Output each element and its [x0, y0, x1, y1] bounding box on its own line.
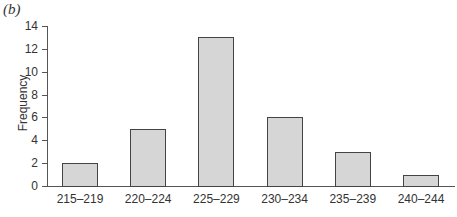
y-tick [42, 49, 47, 50]
y-tick-label: 8 [10, 89, 38, 101]
y-tick-label: 12 [10, 43, 38, 55]
y-tick [42, 72, 47, 73]
bar-235–239 [335, 152, 371, 187]
x-tick-label: 240–244 [391, 192, 451, 206]
x-tick-label: 220–224 [118, 192, 178, 206]
x-tick-label: 225–229 [186, 192, 246, 206]
y-tick-label: 2 [10, 157, 38, 169]
y-tick [42, 140, 47, 141]
y-tick [42, 26, 47, 27]
bar-225–229 [198, 37, 234, 187]
y-tick-label: 4 [10, 134, 38, 146]
panel-label: (b) [3, 1, 21, 18]
y-tick-label: 14 [10, 20, 38, 32]
x-tick-label: 235–239 [323, 192, 383, 206]
x-tick-label: 230–234 [255, 192, 315, 206]
x-tick-label: 215–219 [50, 192, 110, 206]
x-axis [47, 186, 455, 187]
y-tick-label: 0 [10, 180, 38, 192]
bar-240–244 [403, 175, 439, 187]
y-tick [42, 95, 47, 96]
y-tick-label: 10 [10, 66, 38, 78]
y-tick-label: 6 [10, 111, 38, 123]
y-tick [42, 163, 47, 164]
y-tick [42, 186, 47, 187]
y-tick [42, 117, 47, 118]
bar-220–224 [130, 129, 166, 187]
bar-230–234 [267, 117, 303, 187]
y-axis [47, 26, 48, 186]
bar-215–219 [62, 163, 98, 187]
